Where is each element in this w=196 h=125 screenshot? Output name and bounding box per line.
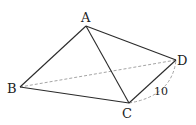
edge-ac: [86, 26, 129, 103]
edge-bd-hidden: [20, 60, 176, 87]
vertex-label-b: B: [7, 81, 17, 96]
tetrahedron-diagram: A B C D 10: [0, 0, 196, 125]
dimension-label-cd: 10: [154, 85, 168, 98]
vertex-label-d: D: [177, 53, 187, 68]
vertex-label-c: C: [122, 106, 132, 121]
edge-ad: [86, 26, 176, 60]
vertex-label-a: A: [80, 10, 91, 25]
edge-ab: [20, 26, 86, 87]
edge-bc: [20, 87, 129, 103]
